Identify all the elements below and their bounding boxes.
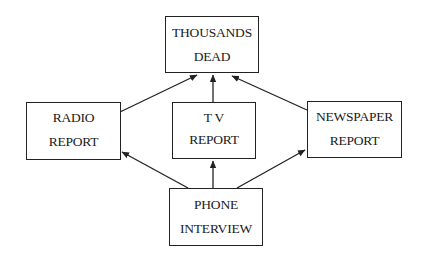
node-label-line: PHONE <box>194 193 238 217</box>
node-tv-report: T V REPORT <box>172 102 256 159</box>
node-newspaper-report: NEWSPAPER REPORT <box>307 101 402 158</box>
node-label-line: THOUSANDS <box>172 21 252 45</box>
node-label-line: REPORT <box>189 129 239 151</box>
node-label-line: NEWSPAPER <box>316 105 393 129</box>
node-label-line: INTERVIEW <box>180 217 252 241</box>
node-label-line: REPORT <box>49 130 99 154</box>
node-label-line: REPORT <box>330 129 380 153</box>
node-label-line: DEAD <box>194 45 231 69</box>
node-phone-interview: PHONE INTERVIEW <box>169 188 263 246</box>
node-radio-report: RADIO REPORT <box>26 102 121 160</box>
node-label-line: RADIO <box>53 106 95 130</box>
node-thousands-dead: THOUSANDS DEAD <box>165 16 259 73</box>
node-label-line: T V <box>204 107 224 129</box>
